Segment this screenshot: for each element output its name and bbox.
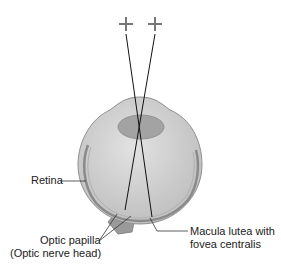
- label-macula-lutea: Macula lutea with: [190, 225, 275, 238]
- label-optic-nerve-head: (Optic nerve head): [10, 247, 101, 260]
- fixation-cross-right: [148, 17, 162, 31]
- label-optic-papilla: Optic papilla: [40, 234, 101, 247]
- fixation-cross-left: [119, 17, 133, 31]
- eye-diagram: Retina Optic papilla (Optic nerve head) …: [0, 0, 281, 272]
- label-fovea-centralis: fovea centralis: [190, 238, 261, 251]
- label-retina: Retina: [31, 174, 63, 187]
